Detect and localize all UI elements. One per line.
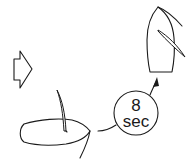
boat-start-sheet bbox=[66, 131, 67, 132]
arrowhead-icon bbox=[153, 77, 159, 87]
path-to-timer bbox=[98, 125, 116, 131]
timer-unit: sec bbox=[123, 112, 150, 131]
boat-start-hull bbox=[20, 119, 90, 145]
boat-start bbox=[20, 90, 90, 158]
sailing-maneuver-diagram: 8 sec bbox=[0, 0, 187, 163]
direction-arrow-icon bbox=[14, 51, 32, 88]
boat-end bbox=[147, 7, 185, 72]
timer-badge: 8 sec bbox=[114, 91, 158, 135]
